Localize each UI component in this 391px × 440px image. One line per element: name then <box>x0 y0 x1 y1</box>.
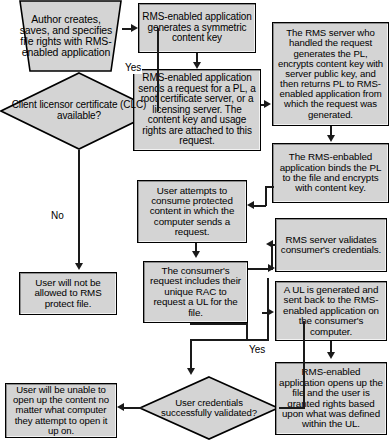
arrowhead-binds-to-user-attempts <box>247 201 254 209</box>
node-consumer-request-label: The consumer's request includes their un… <box>147 266 244 318</box>
node-clc-available-label: Client licensor certificate (CLC) availa… <box>11 100 147 121</box>
edge-label-yes-bottom: Yes <box>248 345 266 356</box>
node-not-allowed: User will not be allowed to RMS protect … <box>19 272 117 315</box>
arrowhead-clc-yes <box>131 24 138 32</box>
connector-diamond-to-unable <box>124 407 142 409</box>
arrowhead-clc-no <box>75 263 83 270</box>
node-not-allowed-label: User will not be allowed to RMS protect … <box>23 278 113 309</box>
edge-label-no-left: No <box>50 211 65 222</box>
node-opens-file: RMS-enabled application opens up the fil… <box>275 362 387 435</box>
connector-consumer-bottom-stub <box>190 323 248 325</box>
node-sends-request: RMS-enabled application sends a request … <box>133 69 261 151</box>
node-validates-credentials-label: RMS server validates consumer's credenti… <box>279 235 383 256</box>
arrowhead-generates-to-sends <box>193 62 201 69</box>
node-binds-pl-label: The RMS-enbabled application binds the P… <box>276 152 385 194</box>
connector-clc-yes-horizontal <box>157 110 158 112</box>
node-credentials-validated: User credentials successfully validated? <box>139 376 279 440</box>
node-unable-to-open: User will be unable to open up the conte… <box>5 383 117 438</box>
node-unable-to-open-label: User will be unable to open up the conte… <box>9 385 113 436</box>
connector-consumer-bottom-drop <box>246 323 248 340</box>
node-ul-generated-label: A UL is generated and sent back to the R… <box>279 285 383 337</box>
node-author-creates: Author creates, saves, and specifies fil… <box>10 0 122 72</box>
connector-yes-to-ul <box>303 321 304 323</box>
edge-label-yes-top: Yes <box>124 63 142 74</box>
arrowhead-ul-to-opens <box>327 352 335 359</box>
connector-binds-left-horizontal-top <box>265 186 274 188</box>
arrowhead-user-attempts-to-consumer <box>192 251 200 258</box>
node-opens-file-label: RMS-enabled application opens up the fil… <box>279 367 383 429</box>
arrowhead-sends-to-rms-server <box>264 100 271 108</box>
node-binds-pl: The RMS-enbabled application binds the P… <box>272 143 389 203</box>
connector-consumer-to-diamond-horizontal <box>190 339 269 341</box>
node-rms-server-handles-label: The RMS server who handled the request g… <box>276 28 385 119</box>
node-validates-credentials: RMS server validates consumer's credenti… <box>275 218 387 272</box>
connector-yes-bottom-vertical <box>303 321 305 408</box>
connector-clc-no-vertical <box>78 150 80 264</box>
connector-clc-yes-vertical <box>157 28 159 111</box>
arrowhead-diamond-to-unable <box>117 403 124 411</box>
node-ul-generated: A UL is generated and sent back to the R… <box>275 281 387 341</box>
node-sends-request-label: RMS-enabled application sends a request … <box>137 73 257 147</box>
connector-yes-bottom-horizontal <box>279 407 305 409</box>
connector-ul-entry <box>262 312 270 314</box>
flowchart-canvas: Author creates, saves, and specifies fil… <box>0 0 391 440</box>
arrowhead-validates-feedback <box>266 240 273 248</box>
connector-binds-to-user-attempts <box>254 205 266 207</box>
node-consumer-request: The consumer's request includes their un… <box>143 261 248 323</box>
arrowhead-into-credentials-diamond <box>187 368 195 375</box>
node-generates-key: RMS-enabled application generates a symm… <box>138 3 256 53</box>
arrowhead-rms-server-to-binds <box>327 135 335 142</box>
connector-binds-left-vertical <box>265 186 267 206</box>
node-user-attempts: User attempts to consume protected conte… <box>137 180 247 243</box>
connector-diamond-entry-vertical <box>190 339 192 369</box>
node-user-attempts-label: User attempts to consume protected conte… <box>141 186 243 238</box>
node-author-creates-label: Author creates, saves, and specifies fil… <box>19 14 113 59</box>
node-rms-server-handles: The RMS server who handled the request g… <box>272 22 389 126</box>
node-credentials-validated-label: User credentials successfully validated? <box>149 398 269 418</box>
